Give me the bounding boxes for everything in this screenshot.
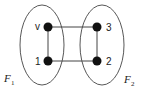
node-2	[93, 57, 102, 66]
group-label-f2: F	[123, 73, 131, 85]
node-label-3: 3	[106, 22, 112, 33]
node-label-v: v	[35, 21, 40, 32]
node-label-1: 1	[35, 56, 41, 67]
node-label-2: 2	[106, 56, 112, 67]
group-label-f1: F	[3, 72, 11, 84]
node-3	[93, 23, 102, 32]
group-f1-ellipse	[20, 5, 64, 85]
group-label-f2-subscript: 2	[131, 80, 135, 88]
group-label-f1-subscript: 1	[11, 79, 15, 87]
node-v	[44, 23, 53, 32]
node-1	[44, 57, 53, 66]
graph-diagram: v 1 3 2 F 1 F 2	[0, 0, 149, 92]
group-f2-ellipse	[80, 5, 124, 85]
